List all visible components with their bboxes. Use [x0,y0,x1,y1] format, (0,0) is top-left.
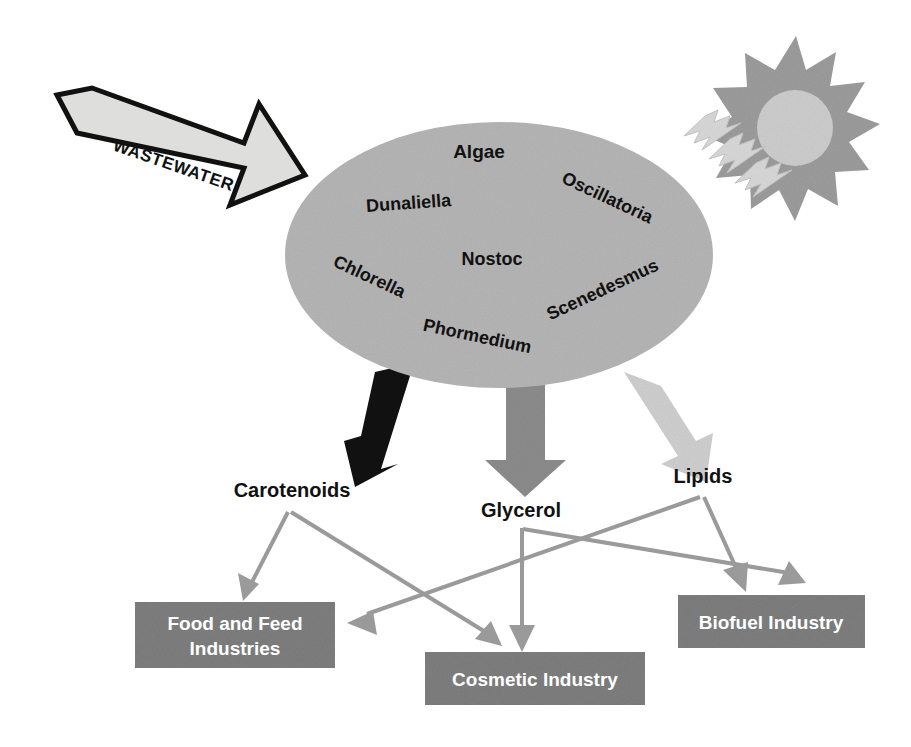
industry-box-food-and-feed[interactable]: Food and Feed Industries [135,602,335,668]
industry-boxes: Food and Feed Industries Cosmetic Indust… [135,595,865,705]
product-label-carotenoids: Carotenoids [234,479,351,501]
industry-box-label-line: Cosmetic Industry [452,669,618,690]
gray-down-arrow-icon [485,370,566,497]
industry-box-biofuel[interactable]: Biofuel Industry [678,595,865,648]
diagram-canvas: WASTEWATER Algae Dunaliella Oscillatoria… [0,0,911,747]
industry-box-label-line: Industries [190,638,281,659]
wastewater-arrow: WASTEWATER [57,88,305,205]
industry-box-cosmetic[interactable]: Cosmetic Industry [425,652,645,705]
industry-box-label-line: Food and Feed [167,613,302,634]
sun-core-icon [757,90,833,166]
connector-lipids-to-biofuel [704,497,748,592]
black-down-arrow-icon [344,363,414,487]
block-arrow-icon [57,88,305,205]
diagram-svg: WASTEWATER Algae Dunaliella Oscillatoria… [0,0,911,747]
product-label-glycerol: Glycerol [481,499,561,521]
connector-glycerol-to-biofuel [523,529,806,585]
product-label-lipids: Lipids [674,465,733,487]
connector-glycerol-to-cosmetic [509,528,535,652]
organism-label: Nostoc [461,249,522,269]
industry-box-label-line: Biofuel Industry [699,612,844,633]
connector-carotenoids-to-food [238,512,288,601]
organism-label: Algae [453,141,505,162]
